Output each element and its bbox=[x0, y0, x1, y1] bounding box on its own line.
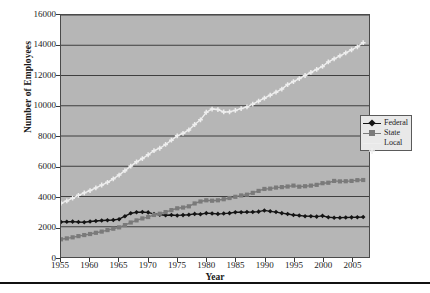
square-marker-icon bbox=[369, 130, 375, 136]
chart-figure: 0200040006000800010000120001400016000 Nu… bbox=[0, 0, 430, 293]
y-tick-label: 14000 bbox=[16, 40, 56, 49]
y-tick-label: 16000 bbox=[16, 10, 56, 19]
x-tick-mark bbox=[60, 258, 61, 262]
x-tick-label: 2005 bbox=[332, 261, 372, 270]
x-tick-mark bbox=[235, 258, 236, 262]
x-tick-mark bbox=[323, 258, 324, 262]
x-tick-mark bbox=[206, 258, 207, 262]
diamond-marker-icon bbox=[368, 119, 375, 126]
legend-item-local: Local bbox=[363, 138, 408, 148]
y-tick-mark bbox=[56, 167, 60, 168]
y-tick-mark bbox=[56, 228, 60, 229]
x-tick-mark bbox=[89, 258, 90, 262]
y-axis-title: Number of Employees bbox=[23, 7, 33, 167]
legend-label-local: Local bbox=[384, 139, 402, 147]
y-tick-label: 12000 bbox=[16, 71, 56, 80]
plus-marker-icon bbox=[369, 140, 375, 146]
y-tick-mark bbox=[56, 45, 60, 46]
y-tick-label: 6000 bbox=[16, 162, 56, 171]
x-tick-mark bbox=[294, 258, 295, 262]
x-tick-mark bbox=[118, 258, 119, 262]
x-tick-mark bbox=[148, 258, 149, 262]
plot-area bbox=[60, 14, 370, 258]
y-tick-mark bbox=[56, 14, 60, 15]
bottom-horizontal-rule bbox=[0, 282, 430, 284]
legend-swatch-local bbox=[363, 139, 381, 147]
y-tick-mark bbox=[56, 197, 60, 198]
y-tick-label: 10000 bbox=[16, 101, 56, 110]
legend-label-federal: Federal bbox=[384, 119, 408, 127]
data-series-layer bbox=[61, 15, 369, 257]
y-tick-mark bbox=[56, 136, 60, 137]
y-tick-mark bbox=[56, 106, 60, 107]
legend-swatch-federal bbox=[363, 119, 381, 127]
x-tick-mark bbox=[352, 258, 353, 262]
legend-swatch-state bbox=[363, 129, 381, 137]
x-axis-title: Year bbox=[0, 272, 430, 282]
chart-legend: Federal State Local bbox=[360, 115, 412, 151]
legend-item-federal: Federal bbox=[363, 118, 408, 128]
y-tick-mark bbox=[56, 75, 60, 76]
y-tick-label: 2000 bbox=[16, 223, 56, 232]
x-tick-mark bbox=[265, 258, 266, 262]
x-tick-mark bbox=[177, 258, 178, 262]
legend-label-state: State bbox=[384, 129, 400, 137]
y-tick-label: 4000 bbox=[16, 193, 56, 202]
legend-item-state: State bbox=[363, 128, 408, 138]
y-tick-label: 8000 bbox=[16, 132, 56, 141]
